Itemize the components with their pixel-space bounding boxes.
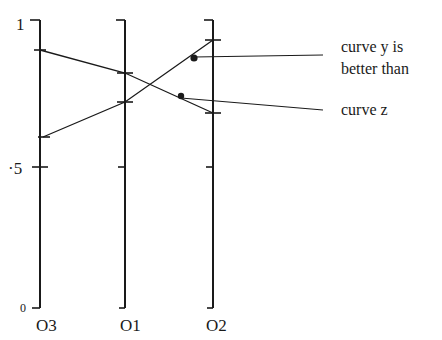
annotation-curve-y-line2: better than [341, 60, 409, 77]
annotation-curve-y-line1: curve y is [341, 38, 403, 56]
annotation-curve-z: curve z [341, 101, 388, 118]
curve-y [43, 40, 213, 137]
axis-o2 [204, 20, 221, 308]
axis-label-o2: O2 [206, 316, 227, 335]
curve-y-marker [190, 54, 197, 61]
axis-o1 [116, 20, 133, 308]
axis-label-o1: O1 [120, 316, 141, 335]
y-tick-bottom-label: 0 [20, 301, 26, 315]
y-tick-top-label: 1 [16, 15, 25, 34]
y-tick-mid-label: ·5 [8, 159, 22, 178]
axis-label-o3: O3 [36, 316, 57, 335]
curve-z [40, 50, 213, 113]
axis-o3 [30, 20, 50, 308]
parallel-axis-diagram: 1 ·5 0 O3 O1 O2 curve y is better than c… [0, 0, 442, 340]
